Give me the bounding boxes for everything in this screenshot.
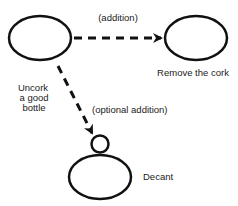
remove-cork-use-case-ellipse — [165, 16, 227, 60]
extension-point-circle — [92, 136, 109, 153]
remove-cork-label: Remove the cork — [157, 67, 229, 78]
addition-edge-label: (addition) — [98, 12, 138, 23]
uncork-use-case-ellipse — [9, 16, 71, 60]
optional-addition-dashed-arrow — [58, 66, 92, 133]
optional-addition-edge-label: (optional addition) — [92, 104, 168, 115]
decant-use-case-ellipse — [69, 155, 131, 199]
diagram-canvas: (addition) Remove the cork Uncork a good… — [0, 0, 238, 206]
uncork-label-line-3: bottle — [22, 102, 45, 113]
decant-label: Decant — [143, 171, 173, 182]
